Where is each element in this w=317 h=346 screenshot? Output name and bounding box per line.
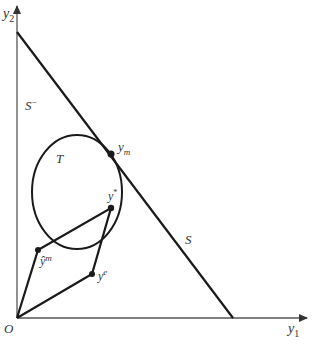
s-line-label: S <box>185 232 192 247</box>
hyperplane-s-line <box>17 32 233 318</box>
point-y-m <box>108 151 115 158</box>
point-y-star <box>108 205 114 211</box>
y-m-label: ym <box>116 139 131 157</box>
point-y-e <box>89 271 95 277</box>
y2-axis-label: y2 <box>1 6 14 24</box>
t-set-label: T <box>56 151 64 166</box>
s-minus-label: S− <box>25 97 37 113</box>
diagram-canvas: y2 y1 O S− S T ym y* ŷm ye <box>0 0 317 346</box>
y-hat-m-label: ŷm <box>39 253 52 268</box>
origin-label: O <box>4 321 14 336</box>
point-y-hat-m <box>35 247 41 253</box>
y-e-label: ye <box>97 267 107 283</box>
parallelogram <box>17 208 111 318</box>
y-star-label: y* <box>107 188 117 203</box>
y1-axis-label: y1 <box>286 321 299 339</box>
